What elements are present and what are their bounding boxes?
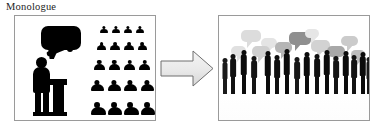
figure-leg-right xyxy=(354,75,356,95)
figure-caption: Monologue xyxy=(6,1,56,12)
crowd-figure xyxy=(263,51,272,94)
person-body xyxy=(100,29,108,33)
person-body xyxy=(141,107,156,115)
figure-leg-right xyxy=(346,73,348,95)
person-body xyxy=(112,29,120,33)
audience-person-icon xyxy=(91,102,104,117)
crowd-figure xyxy=(350,55,358,94)
audience-person-icon xyxy=(139,60,150,71)
audience-person-icon xyxy=(109,60,120,71)
crowd-figure xyxy=(341,51,350,94)
audience-person-icon xyxy=(124,26,132,35)
crowd-figure xyxy=(332,56,340,94)
audience-person-icon xyxy=(97,42,107,52)
figure-leg-right xyxy=(297,76,299,95)
monologue-panel xyxy=(14,15,156,121)
audience-person-icon xyxy=(124,80,137,93)
person-body xyxy=(108,84,121,91)
figure-leg-right xyxy=(369,76,370,95)
figure-root: Monologue xyxy=(0,0,376,135)
audience-person-icon xyxy=(138,42,148,52)
audience-row xyxy=(91,26,153,35)
figure-leg-right xyxy=(327,72,329,94)
figure-leg-right xyxy=(317,74,319,94)
audience-person-icon xyxy=(108,102,121,117)
figure-leg-right xyxy=(254,75,256,94)
person-body xyxy=(97,45,107,50)
crowd-figure xyxy=(322,50,331,94)
figure-leg-right xyxy=(244,72,246,94)
figure-leg-right xyxy=(268,73,270,95)
crowd-figure xyxy=(221,58,228,94)
dialogue-panel xyxy=(218,15,370,121)
crowd-speech-bubble-icon xyxy=(341,36,358,46)
person-body xyxy=(124,64,135,70)
transition-arrow xyxy=(160,50,214,87)
crowd-speech-bubble-icon xyxy=(305,29,319,38)
audience-person-icon xyxy=(100,26,108,35)
person-body xyxy=(109,64,120,70)
person-body xyxy=(141,84,154,91)
crowd-figure xyxy=(365,57,370,94)
person-body xyxy=(91,84,104,91)
audience-person-icon xyxy=(110,42,120,52)
podium-column xyxy=(53,84,64,115)
audience-person-icon xyxy=(141,102,154,117)
figure-leg-right xyxy=(287,72,289,95)
person-body xyxy=(124,29,132,33)
person-body xyxy=(91,107,106,115)
crowd-figure xyxy=(313,54,321,94)
podium-base xyxy=(50,112,67,116)
crowd-figure xyxy=(293,57,301,94)
person-body xyxy=(138,45,148,50)
crowd-figure xyxy=(282,49,291,94)
audience-person-icon xyxy=(136,26,144,35)
speaker-group xyxy=(27,24,89,116)
audience-person-icon xyxy=(108,80,121,93)
figure-leg-right xyxy=(233,74,235,94)
audience-person-icon xyxy=(91,80,104,93)
crowd-figure xyxy=(229,54,237,94)
audience-row xyxy=(91,80,153,93)
crowd-figure xyxy=(273,55,281,94)
speaker-foot xyxy=(33,112,51,116)
audience-grid xyxy=(91,26,153,116)
crowd-figure xyxy=(250,56,258,94)
person-body xyxy=(136,29,144,33)
person-body xyxy=(124,107,139,115)
person-body xyxy=(124,84,137,91)
person-body xyxy=(124,45,134,50)
crowd-figure xyxy=(239,50,248,94)
figure-leg-right xyxy=(225,76,227,94)
person-body xyxy=(108,107,123,115)
person-body xyxy=(94,64,105,70)
speaker-body xyxy=(33,67,50,93)
audience-person-icon xyxy=(112,26,120,35)
figure-leg-right xyxy=(277,75,279,95)
audience-person-icon xyxy=(124,42,134,52)
person-body xyxy=(110,45,120,50)
audience-person-icon xyxy=(141,80,154,93)
audience-row xyxy=(91,60,153,71)
floor-surface xyxy=(219,94,369,120)
person-body xyxy=(139,64,150,70)
crowd-figure xyxy=(302,52,311,94)
crowd-speech-bubble-icon xyxy=(241,30,261,42)
figure-leg-right xyxy=(336,75,338,94)
audience-row xyxy=(91,42,153,52)
audience-person-icon xyxy=(124,60,135,71)
figure-leg-right xyxy=(307,73,309,94)
speaker-hand xyxy=(67,46,73,52)
audience-row xyxy=(91,102,153,117)
audience-person-icon xyxy=(94,60,105,71)
audience-person-icon xyxy=(124,102,137,117)
